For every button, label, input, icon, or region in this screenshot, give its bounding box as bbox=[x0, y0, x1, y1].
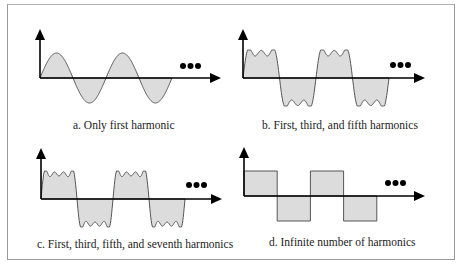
wave-lobe bbox=[41, 171, 77, 199]
wave-lobe bbox=[277, 196, 310, 221]
ellipsis-dot bbox=[188, 63, 194, 69]
wave-lobe bbox=[106, 53, 139, 78]
ellipsis-dot bbox=[195, 63, 201, 69]
wave-lobe bbox=[40, 53, 73, 78]
y-axis-arrow-icon bbox=[35, 29, 45, 40]
wave-lobe bbox=[353, 78, 390, 106]
panel-d bbox=[239, 147, 425, 221]
panel-a bbox=[35, 29, 221, 103]
y-axis-arrow-icon bbox=[238, 29, 248, 40]
wave-lobe bbox=[280, 78, 317, 106]
ellipsis-dot bbox=[405, 62, 411, 68]
ellipsis-dot bbox=[201, 182, 207, 188]
ellipsis-dot bbox=[390, 62, 396, 68]
ellipsis-dot bbox=[186, 182, 192, 188]
x-axis-arrow-icon bbox=[210, 73, 221, 83]
caption-d: d. Infinite number of harmonics bbox=[269, 236, 416, 248]
wave-lobe bbox=[344, 196, 377, 221]
panel-c bbox=[36, 148, 222, 227]
harmonics-figure bbox=[0, 0, 462, 265]
ellipsis-dot bbox=[385, 180, 391, 186]
wave-lobe bbox=[243, 50, 280, 78]
wave-lobe bbox=[310, 171, 343, 196]
ellipsis-dot bbox=[398, 62, 404, 68]
caption-a: a. Only first harmonic bbox=[73, 119, 175, 131]
caption-b: b. First, third, and fifth harmonics bbox=[262, 119, 418, 131]
y-axis-arrow-icon bbox=[239, 147, 249, 158]
wave-lobe bbox=[139, 78, 172, 103]
ellipsis-dot bbox=[393, 180, 399, 186]
x-axis-arrow-icon bbox=[211, 194, 222, 204]
ellipsis-dot bbox=[400, 180, 406, 186]
ellipsis-dot bbox=[194, 182, 200, 188]
ellipsis-dot bbox=[180, 63, 186, 69]
x-axis-arrow-icon bbox=[414, 191, 425, 201]
wave-lobe bbox=[244, 171, 277, 196]
panel-b bbox=[238, 29, 425, 106]
wave-lobe bbox=[316, 50, 353, 78]
wave-lobe bbox=[149, 199, 185, 227]
wave-lobe bbox=[113, 171, 149, 199]
y-axis-arrow-icon bbox=[36, 148, 46, 159]
caption-c: c. First, third, fifth, and seventh harm… bbox=[37, 238, 233, 250]
x-axis-arrow-icon bbox=[414, 73, 425, 83]
wave-lobe bbox=[73, 78, 106, 103]
wave-lobe bbox=[77, 199, 113, 227]
